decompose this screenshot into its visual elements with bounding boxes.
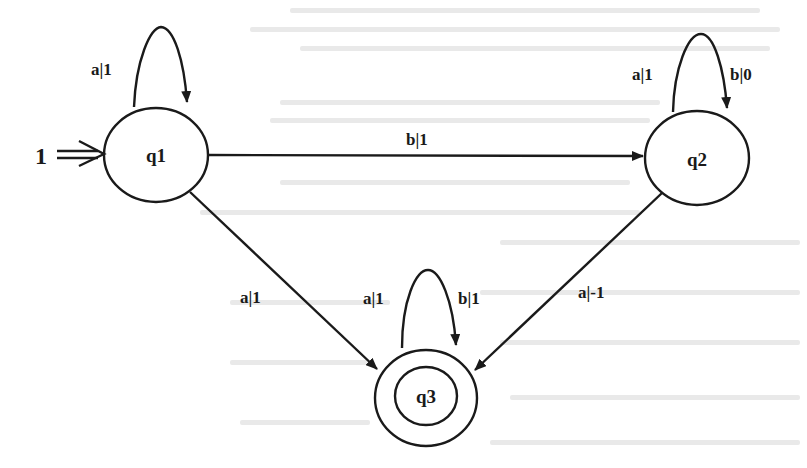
background-bleed-through xyxy=(200,8,800,445)
state-q3-final: q3 xyxy=(375,350,477,446)
state-q1-label: q1 xyxy=(146,145,166,166)
state-q1: q1 xyxy=(104,108,208,202)
edge-label: a|1 xyxy=(240,288,261,307)
state-q2: q2 xyxy=(645,111,749,205)
transition-q1-q3: a|1 xyxy=(190,192,377,369)
transition-q3-loop: a|1 b|1 xyxy=(363,270,480,348)
transition-q1-loop: a|1 xyxy=(91,27,187,107)
edge-label: a|1 xyxy=(91,60,112,79)
double-arrow-icon xyxy=(79,141,104,166)
transition-q1-q2: b|1 xyxy=(208,130,643,156)
automaton-diagram: 1 q1 q2 q3 a|1 b|1 a|1 b|0 a|1 xyxy=(0,0,807,468)
edge-label-a: a|1 xyxy=(363,289,384,308)
state-q3-label: q3 xyxy=(416,386,436,407)
initial-weight-label: 1 xyxy=(35,143,47,169)
edge-label: b|1 xyxy=(406,130,428,149)
edge-label-b: b|1 xyxy=(458,289,480,308)
edge-label-a: a|1 xyxy=(632,65,653,84)
initial-arrow: 1 xyxy=(35,141,104,169)
state-q2-label: q2 xyxy=(687,149,707,170)
edge-label-b: b|0 xyxy=(730,65,752,84)
edge-label: a|-1 xyxy=(578,283,604,302)
